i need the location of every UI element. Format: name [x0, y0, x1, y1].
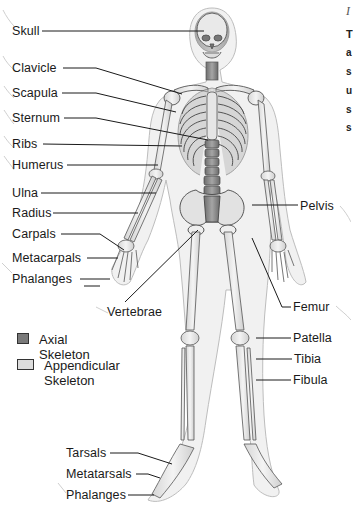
cropped-text-line-4: u [346, 85, 352, 96]
label-metatarsals: Metatarsals [66, 467, 132, 481]
label-phalanges-hand: Phalanges [12, 272, 72, 286]
label-pelvis: Pelvis [300, 199, 334, 213]
label-vertebrae: Vertebrae [107, 305, 162, 319]
cropped-text-line-1: T [346, 28, 353, 40]
label-sternum: Sternum [12, 111, 60, 125]
label-tarsals: Tarsals [66, 446, 106, 460]
label-tibia: Tibia [294, 352, 321, 366]
legend-label-appendicular-line1: Appendicular [44, 358, 120, 373]
sternum-bone [207, 92, 217, 140]
legend-item-appendicular: Appendicular Skeleton [17, 358, 120, 388]
cropped-heading-glyph: I [346, 4, 350, 19]
label-humerus: Humerus [12, 158, 63, 172]
label-patella: Patella [293, 331, 332, 345]
label-phalanges-foot: Phalanges [66, 488, 126, 502]
cervical-vertebrae [206, 62, 218, 80]
label-ribs: Ribs [12, 137, 37, 151]
label-radius: Radius [12, 206, 52, 220]
label-carpals: Carpals [12, 227, 56, 241]
axial-swatch [17, 333, 29, 344]
cropped-text-line-6: s [346, 122, 352, 133]
spine [204, 140, 220, 195]
cropped-text-line-3: s [346, 66, 352, 77]
label-femur: Femur [293, 300, 330, 314]
label-clavicle: Clavicle [12, 61, 57, 75]
label-ulna: Ulna [12, 186, 38, 200]
label-metacarpals: Metacarpals [12, 251, 81, 265]
cropped-text-line-5: s [346, 104, 352, 115]
appendicular-swatch [17, 359, 34, 370]
legend-label-appendicular-line2: Skeleton [44, 373, 95, 388]
legend-label-appendicular: Appendicular Skeleton [44, 358, 120, 388]
label-fibula: Fibula [293, 373, 328, 387]
label-skull: Skull [12, 24, 40, 38]
label-scapula: Scapula [12, 86, 58, 100]
cropped-text-line-2: a [346, 47, 352, 58]
